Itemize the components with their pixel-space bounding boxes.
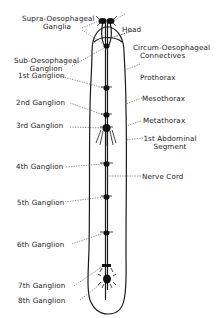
label-7th-ganglion: 7th Ganglion	[18, 282, 65, 290]
label-5th-ganglion: 5th Ganglion	[17, 199, 64, 207]
label-line: Ganglia	[22, 23, 92, 31]
label-8th-ganglion: 8th Ganglion	[18, 297, 65, 305]
label-3rd-ganglion: 3rd Ganglion	[16, 122, 64, 130]
label-prothorax: Prothorax	[140, 74, 176, 82]
label-head: Head	[122, 26, 141, 34]
label-6th-ganglion: 6th Ganglion	[17, 241, 64, 249]
label-metathorax: Metathorax	[143, 117, 185, 125]
nervous-system-diagram: Supra-Oesophageal Ganglia Sub-Oesophagea…	[0, 0, 220, 318]
label-4th-ganglion: 4th Ganglion	[16, 163, 63, 171]
label-supra-oesophageal-ganglia: Supra-Oesophageal Ganglia	[22, 15, 92, 31]
label-2nd-ganglion: 2nd Ganglion	[16, 99, 65, 107]
label-line: Connectives	[133, 52, 210, 60]
label-1st-ganglion: 1st Ganglion	[18, 72, 65, 80]
label-circum-oesophageal-connectives: Circum-Oesophageal Connectives	[133, 44, 210, 60]
label-1st-abdominal-segment: 1st Abdominal Segment	[140, 135, 200, 151]
label-line: Segment	[140, 143, 200, 151]
label-nerve-cord: Nerve Cord	[142, 173, 184, 181]
label-mesothorax: Mesothorax	[142, 95, 185, 103]
